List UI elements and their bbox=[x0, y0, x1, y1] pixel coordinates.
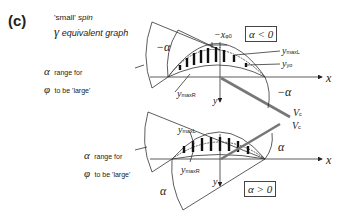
offset-x: −x bbox=[214, 29, 225, 40]
top-angle-neg-alpha-2: −α bbox=[277, 85, 291, 100]
caption-quote: 'small' bbox=[54, 13, 76, 22]
top-offset-label: −xφ0 bbox=[214, 29, 232, 40]
sub: yo bbox=[286, 62, 292, 68]
top-label-ymaxr: ymaxR bbox=[177, 88, 196, 99]
bottom-angle-alpha: α bbox=[278, 140, 284, 155]
sub: c bbox=[299, 111, 302, 117]
top-label-ymaxl: ymaxL bbox=[282, 45, 300, 56]
diagram-lines bbox=[0, 0, 343, 219]
sub: maxL bbox=[286, 49, 299, 55]
top-y-axis-label: y bbox=[213, 95, 217, 106]
top-label-yyo: yyo bbox=[282, 58, 292, 69]
sub: c bbox=[298, 124, 301, 130]
caption-graph: equivalent graph bbox=[59, 28, 128, 38]
alpha-symbol: α bbox=[84, 149, 90, 161]
bottom-condition-box: α > 0 bbox=[244, 181, 276, 197]
large-text: to be 'large' bbox=[55, 87, 91, 94]
bottom-label-ymaxl: ymaxL bbox=[178, 124, 196, 135]
bottom-label-ymaxr: ymaxR bbox=[181, 164, 200, 175]
caption-spin: spin bbox=[76, 13, 93, 22]
sub: maxR bbox=[185, 168, 199, 174]
sub: maxR bbox=[181, 92, 195, 98]
bottom-velocity-label: Vc bbox=[292, 120, 301, 131]
bottom-range-label: α range for φ to be 'large' bbox=[84, 145, 130, 181]
bottom-y-axis-label: y bbox=[213, 176, 217, 187]
phi-symbol: φ bbox=[84, 167, 90, 179]
large-text: to be 'large' bbox=[95, 171, 131, 178]
offset-sub: φ0 bbox=[225, 33, 232, 39]
caption-equivalent-graph: γ equivalent graph bbox=[54, 24, 128, 40]
range-text: range for bbox=[54, 69, 82, 76]
top-velocity-label: Vc bbox=[293, 107, 302, 118]
range-text: range for bbox=[94, 153, 122, 160]
alpha-symbol: α bbox=[44, 65, 50, 77]
bottom-x-axis-label: x bbox=[326, 153, 331, 168]
bottom-angle-alpha-2: α bbox=[160, 184, 166, 199]
top-condition-box: α < 0 bbox=[245, 26, 277, 42]
phi-symbol: φ bbox=[44, 83, 50, 95]
top-angle-neg-alpha: −α bbox=[156, 40, 170, 55]
caption-small-spin: 'small' spin bbox=[54, 13, 93, 22]
sub: maxL bbox=[182, 128, 195, 134]
top-x-axis-label: x bbox=[326, 71, 331, 86]
top-range-label: α range for φ to be 'large' bbox=[44, 61, 90, 97]
panel-label: (c) bbox=[8, 12, 26, 29]
